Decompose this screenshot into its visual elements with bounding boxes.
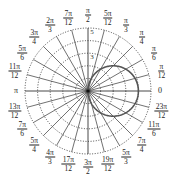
angle-label-60: π3: [123, 17, 129, 34]
spoke: [88, 60, 143, 92]
angle-label-270: 3π2: [83, 159, 93, 176]
angle-label-210: 7π6: [17, 121, 27, 138]
angle-label-15: π12: [158, 63, 166, 80]
angle-label-0: 0: [158, 87, 162, 95]
spoke: [88, 75, 149, 91]
angle-label-330: 11π6: [147, 121, 160, 138]
angle-label-345: 23π12: [155, 102, 168, 119]
angle-label-30: π6: [151, 45, 157, 62]
spoke: [43, 46, 88, 91]
spoke: [88, 36, 120, 91]
spoke: [27, 91, 88, 107]
angle-label-75: 5π12: [103, 9, 113, 26]
spoke: [43, 91, 88, 136]
angle-label-45: π4: [139, 29, 145, 46]
angle-label-180: π: [14, 87, 18, 95]
angle-label-315: 7π4: [137, 136, 147, 153]
angle-label-240: 4π3: [45, 148, 55, 165]
angle-label-285: 19π12: [101, 156, 114, 173]
angle-label-195: 13π12: [8, 102, 21, 119]
angle-label-225: 5π4: [29, 136, 39, 153]
angle-label-165: 11π12: [8, 63, 21, 80]
spoke: [88, 91, 120, 146]
angle-label-90: π2: [85, 7, 91, 24]
angle-label-105: 7π12: [64, 9, 74, 26]
radial-tick-3: 3: [90, 53, 94, 61]
origin-dot: [86, 89, 89, 92]
spoke: [33, 60, 88, 92]
radial-tick-5: 5: [90, 28, 94, 36]
angle-label-150: 5π6: [17, 45, 27, 62]
angle-label-120: 2π3: [45, 17, 55, 34]
spoke: [27, 75, 88, 91]
angle-label-135: 3π4: [29, 29, 39, 46]
angle-label-255: 17π12: [62, 156, 75, 173]
spoke: [88, 91, 149, 107]
polar-plot: [0, 0, 171, 182]
angle-label-300: 5π3: [121, 148, 131, 165]
